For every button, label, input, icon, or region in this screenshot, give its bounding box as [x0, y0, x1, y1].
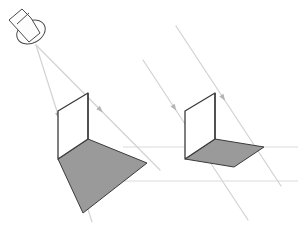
diagram-canvas: [0, 0, 301, 231]
shadow-projection-diagram: [0, 0, 301, 231]
diagram-background: [0, 0, 301, 231]
